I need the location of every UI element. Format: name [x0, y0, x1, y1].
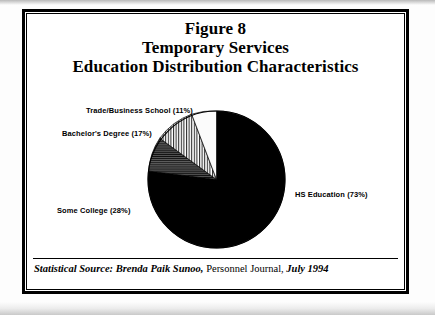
- pie-label-some-college: Some College (28%): [57, 206, 131, 215]
- pie-chart-svg: [147, 110, 286, 249]
- scan-edge-top: [0, 0, 435, 5]
- figure-source-note: Statistical Source: Brenda Paik Sunoo, P…: [34, 263, 329, 274]
- pie-chart: [147, 110, 286, 249]
- source-publication: Personnel Journal,: [204, 263, 284, 274]
- figure-title-line-1: Figure 8: [32, 19, 399, 38]
- figure-title-block: Figure 8 Temporary Services Education Di…: [32, 17, 399, 76]
- scan-edge-bottom: [0, 302, 435, 315]
- source-attribution: Statistical Source: Brenda Paik Sunoo,: [34, 263, 204, 274]
- pie-label-trade-business-school: Trade/Business School (11%): [86, 106, 193, 115]
- source-date: July 1994: [284, 263, 329, 274]
- figure-page: Figure 8 Temporary Services Education Di…: [0, 0, 435, 315]
- pie-label-hs-education: HS Education (73%): [295, 190, 368, 199]
- pie-label-bachelors-degree: Bachelor's Degree (17%): [62, 129, 152, 138]
- figure-title-line-3: Education Distribution Characteristics: [32, 57, 399, 76]
- footer-separator-rule: [33, 258, 398, 259]
- figure-title-line-2: Temporary Services: [32, 38, 399, 57]
